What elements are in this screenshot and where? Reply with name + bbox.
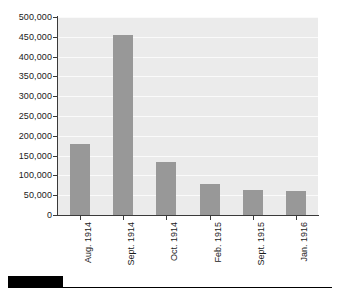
y-axis-tick-mark: [53, 17, 57, 18]
y-axis-tick-text: 250,000: [19, 111, 57, 121]
bar-series: [58, 17, 318, 215]
y-axis-tick-label: 50,000: [0, 191, 57, 200]
x-axis-tick-mark: [210, 215, 211, 220]
x-axis-tick-label: Sept. 1915: [257, 222, 266, 266]
y-axis-tick-label: 100,000: [0, 171, 57, 180]
y-axis-tick-text: 400,000: [19, 52, 57, 62]
y-axis-tick-label: 350,000: [0, 72, 57, 81]
y-axis-tick-mark: [53, 96, 57, 97]
x-axis-tick-marks: [58, 215, 318, 221]
y-axis-tick-mark: [53, 116, 57, 117]
bar-chart-figure: 050,000100,000150,000200,000250,000300,0…: [0, 0, 340, 290]
x-axis-tick-label: Jan. 1916: [300, 222, 309, 262]
bar: [70, 144, 90, 215]
y-axis-tick-text: 350,000: [19, 71, 57, 81]
y-axis-tick-mark: [53, 76, 57, 77]
y-axis-tick-mark: [53, 57, 57, 58]
bar: [200, 184, 220, 215]
y-axis-tick-label: 0: [0, 211, 57, 220]
bar: [286, 191, 306, 215]
footer-rule: [8, 287, 332, 288]
y-axis-tick-text: 300,000: [19, 91, 57, 101]
bar: [243, 190, 263, 215]
x-axis-tick-label: Sept. 1914: [127, 222, 136, 266]
y-axis-tick-mark: [53, 215, 57, 216]
y-axis-tick-mark: [53, 37, 57, 38]
y-axis-tick-text: 100,000: [19, 170, 57, 180]
y-axis-tick-mark: [53, 175, 57, 176]
y-axis-tick-label: 200,000: [0, 132, 57, 141]
x-axis-tick-labels: Aug. 1914Sept. 1914Oct. 1914Feb. 1915Sep…: [58, 222, 318, 282]
y-axis-tick-mark: [53, 156, 57, 157]
x-axis-tick-mark: [80, 215, 81, 220]
x-axis-tick-mark: [253, 215, 254, 220]
y-axis-tick-label: 250,000: [0, 112, 57, 121]
y-axis-tick-label: 450,000: [0, 33, 57, 42]
x-axis-tick-label: Oct. 1914: [170, 222, 179, 261]
y-axis-tick-label: 300,000: [0, 92, 57, 101]
y-axis-tick-label: 400,000: [0, 53, 57, 62]
bar: [113, 35, 133, 215]
x-axis-tick-mark: [296, 215, 297, 220]
y-axis-tick-mark: [53, 136, 57, 137]
x-axis-tick-mark: [166, 215, 167, 220]
y-axis-tick-mark: [53, 195, 57, 196]
x-axis-tick-label: Aug. 1914: [84, 222, 93, 263]
y-axis-tick-labels: 050,000100,000150,000200,000250,000300,0…: [0, 0, 57, 290]
x-axis-tick-label: Feb. 1915: [214, 222, 223, 263]
y-axis-tick-text: 200,000: [19, 131, 57, 141]
y-axis-tick-text: 150,000: [19, 151, 57, 161]
bar: [156, 162, 176, 215]
y-axis-tick-text: 500,000: [19, 12, 57, 22]
x-axis-tick-mark: [123, 215, 124, 220]
y-axis-tick-label: 150,000: [0, 152, 57, 161]
y-axis-tick-text: 450,000: [19, 32, 57, 42]
y-axis-tick-label: 500,000: [0, 13, 57, 22]
